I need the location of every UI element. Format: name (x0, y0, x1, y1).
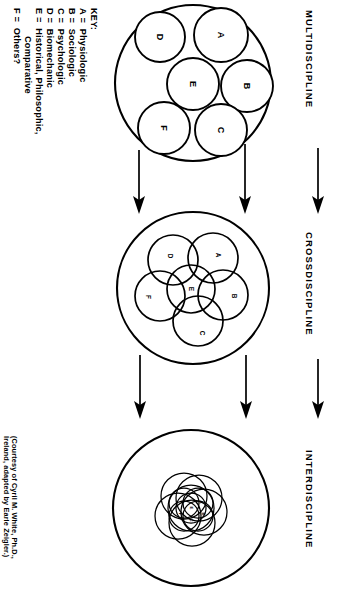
flow-arrow-right (239, 144, 251, 214)
member-label-b: B (231, 294, 238, 299)
interdiscipline-diagram: D A B C F E (106, 428, 286, 596)
member-label-b: B (201, 512, 206, 515)
member-label-a: A (215, 253, 222, 258)
flow-arrow-right (240, 355, 252, 419)
key-entry-f: F = Others? (12, 8, 21, 64)
member-label-e: E (188, 287, 195, 292)
flow-arrow-left (133, 150, 145, 214)
flow-arrows-2 (0, 345, 339, 435)
key-entry-e: E = Historical, Philosophic, (34, 8, 43, 135)
member-label-c: C (199, 331, 206, 336)
member-label-f: F (178, 513, 183, 516)
member-circle-a: A (194, 8, 248, 62)
member-label-a: A (216, 32, 226, 39)
member-circle-b: B (221, 60, 273, 112)
member-label-f: F (145, 295, 152, 299)
stage-side-arrow-2 (312, 359, 324, 419)
key-heading: KEY: (89, 8, 98, 30)
member-label-c: C (189, 518, 194, 521)
key-entry-b: B = Sociologic (67, 8, 76, 77)
flow-arrow-left (134, 355, 146, 419)
key-entry-a: A = Physiologic (78, 8, 87, 82)
key-entry-e-cont: Comparative (23, 36, 32, 94)
member-label-e: E (189, 507, 194, 510)
stage-side-arrow-1 (312, 148, 324, 214)
key-entry-c: C = Psychologic (56, 8, 65, 85)
member-circle-d: D (135, 12, 185, 62)
caption-line-1: (Courtesy of Cyril M. White, Ph.D., (11, 436, 18, 559)
member-label-f: F (159, 125, 169, 131)
stage-interdiscipline: D A B C F E (106, 428, 286, 596)
member-label-c: C (216, 127, 226, 134)
key-entry-d: D = Biomechanic (45, 8, 54, 88)
figure-caption: (Courtesy of Cyril M. White, Ph.D., Irel… (0, 430, 40, 596)
caption-line-2: Ireland, adapted by Earle Zeigler.) (3, 436, 10, 557)
member-label-d: D (167, 254, 174, 259)
member-label-d: D (155, 34, 165, 41)
member-label-b: B (242, 83, 252, 90)
member-label-a: A (199, 500, 204, 503)
member-circle-e: E (167, 58, 219, 110)
member-label-e: E (188, 81, 198, 87)
member-label-d: D (180, 500, 185, 503)
